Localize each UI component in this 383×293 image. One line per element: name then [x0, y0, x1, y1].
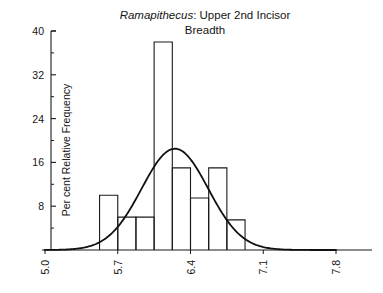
x-tick-label: 5.0: [39, 260, 51, 275]
y-tick-label: 32: [32, 69, 44, 81]
histogram-bar: [154, 42, 172, 250]
y-tick-label: 8: [38, 200, 44, 212]
plot-area: 816243240Per cent Relative Frequency5.05…: [32, 25, 372, 275]
y-tick-label: 24: [32, 113, 44, 125]
histogram-bar: [136, 217, 154, 250]
y-tick-label: 40: [32, 25, 44, 37]
x-tick-label: 7.8: [330, 260, 342, 275]
chart-svg: 816243240Per cent Relative Frequency5.05…: [0, 0, 383, 293]
histogram-bar: [172, 168, 190, 250]
x-tick-label: 6.4: [185, 260, 197, 275]
histogram-bar: [191, 198, 209, 250]
x-tick-label: 5.7: [112, 260, 124, 275]
histogram-bar: [209, 168, 227, 250]
y-axis-label: Per cent Relative Frequency: [60, 83, 72, 216]
y-tick-label: 16: [32, 156, 44, 168]
chart-figure: Ramapithecus: Upper 2nd Incisor Breadth …: [0, 0, 383, 293]
histogram-bar: [100, 195, 118, 250]
x-tick-label: 7.1: [257, 260, 269, 275]
